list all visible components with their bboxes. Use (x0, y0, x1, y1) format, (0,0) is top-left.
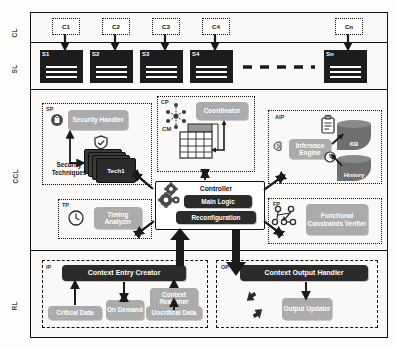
critical-data-node[interactable]: Critical Data (48, 306, 102, 320)
client-c2[interactable]: C2 (102, 18, 130, 35)
server-bar (146, 76, 177, 78)
server-bar (46, 66, 77, 68)
server-s3-label: S3 (142, 51, 149, 57)
reconfiguration-node[interactable]: Reconfiguration (176, 211, 256, 224)
server-sn[interactable]: Sn (324, 50, 367, 83)
server-bar (46, 76, 77, 78)
architecture-diagram: CL SL CCL RL C1 C2 C3 C4 Cn S1 S2 S3 S (0, 0, 394, 347)
server-bar (96, 71, 127, 73)
client-c1[interactable]: C1 (52, 18, 80, 35)
cm-label: CM (162, 126, 171, 132)
server-bar (196, 71, 227, 73)
context-reasoner-node[interactable]: Context Reasoner (150, 288, 198, 308)
on-demand-node[interactable]: On Demand (106, 300, 144, 320)
server-bar (46, 71, 77, 73)
server-bar (146, 66, 177, 68)
server-bar (146, 71, 177, 73)
client-c3-label: C3 (162, 23, 170, 30)
security-techniques-label: Security Techniques (44, 161, 94, 176)
server-sn-label: Sn (326, 51, 334, 57)
server-s2[interactable]: S2 (90, 50, 133, 83)
coordinator-node[interactable]: Coordinator (196, 102, 248, 120)
technique-card-tech1[interactable]: Tech1 (96, 158, 136, 183)
server-bar (330, 76, 361, 78)
server-s1-label: S1 (42, 51, 49, 57)
layer-label-cl: CL (11, 14, 18, 38)
inference-engine-node[interactable]: Inference Engine (289, 139, 331, 159)
server-bar (96, 66, 127, 68)
history-database[interactable]: History (337, 155, 371, 181)
kb-cylinder-cap (337, 120, 371, 128)
kb-database[interactable]: KB (337, 120, 371, 150)
op-tag: OP (221, 264, 229, 270)
uncritical-data-node[interactable]: Uncritical Data (146, 306, 202, 320)
client-c1-label: C1 (62, 23, 70, 30)
server-bar (96, 76, 127, 78)
tp-tag: TP (62, 202, 69, 208)
client-c4-label: C4 (212, 23, 220, 30)
client-c4[interactable]: C4 (202, 18, 230, 35)
server-s2-label: S2 (92, 51, 99, 57)
security-handler-node[interactable]: Security Handler (68, 110, 128, 130)
kb-label: KB (337, 141, 371, 147)
controller-title: Controller (186, 185, 246, 193)
server-s4-label: S4 (192, 51, 199, 57)
client-c3[interactable]: C3 (152, 18, 180, 35)
server-bar (330, 66, 361, 68)
server-s1[interactable]: S1 (40, 50, 83, 83)
main-logic-node[interactable]: Main Logic (184, 195, 252, 208)
client-cn[interactable]: Cn (335, 18, 363, 35)
history-label: History (337, 172, 371, 178)
fp-tag: FP (273, 201, 280, 207)
timing-analyzer-node[interactable]: Timing Analyzer (94, 207, 142, 229)
layer-label-sl: SL (11, 50, 18, 74)
server-bar (330, 71, 361, 73)
aip-tag: AIP (275, 114, 284, 120)
server-s3[interactable]: S3 (140, 50, 183, 83)
history-cylinder-cap (337, 155, 371, 163)
context-entry-creator-node[interactable]: Context Entry Creator (62, 265, 186, 281)
server-bar (196, 76, 227, 78)
layer-label-rl: RL (11, 287, 18, 311)
functional-constraints-verifier-node[interactable]: Functional Constraints Verifier (306, 204, 368, 235)
client-cn-label: Cn (345, 23, 353, 30)
ip-tag: IP (46, 264, 51, 270)
sp-tag: SP (46, 106, 53, 112)
client-c2-label: C2 (112, 23, 120, 30)
server-s4[interactable]: S4 (190, 50, 233, 83)
cp-tag: CP (161, 99, 169, 105)
server-bar (196, 66, 227, 68)
context-output-handler-node[interactable]: Context Output Handler (240, 265, 368, 281)
output-updater-node[interactable]: Output Updater (282, 298, 332, 320)
layer-label-ccl: CCL (12, 154, 19, 184)
